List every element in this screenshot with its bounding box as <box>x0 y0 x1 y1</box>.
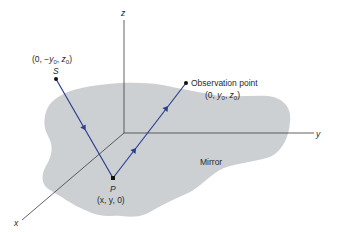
observation-coords-label: (0, y0, z0) <box>205 90 240 101</box>
z-axis-label: z <box>120 8 126 18</box>
source-point-name: S <box>53 66 59 76</box>
mirror-surface <box>43 83 291 217</box>
diagram-canvas: z y x (0, −y0, z0) S Observation point (… <box>0 0 339 232</box>
x-axis-label: x <box>13 218 19 228</box>
observation-point <box>184 81 188 85</box>
reflection-point-p <box>111 176 115 180</box>
source-coords-label: (0, −y0, z0) <box>32 54 72 65</box>
mirror-label: Mirror <box>200 157 222 167</box>
source-point-s <box>54 77 58 81</box>
observation-point-label: Observation point <box>191 78 258 88</box>
y-axis-label: y <box>315 129 321 139</box>
mirror-reflection-diagram: z y x (0, −y0, z0) S Observation point (… <box>0 0 339 232</box>
reflection-coords-label: (x, y, 0) <box>97 195 125 205</box>
reflection-point-name: P <box>110 184 116 194</box>
